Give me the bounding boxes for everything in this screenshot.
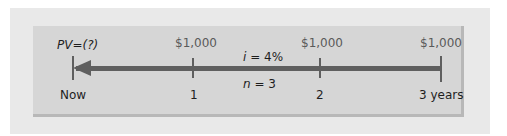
time-label-now: Now [60,88,86,102]
rate-value: = 4% [246,50,283,64]
rate-label: i = 4% [243,50,283,64]
tick-1 [192,58,194,78]
time-label-3-years: 3 years [419,88,463,102]
cash-flow-2: $1,000 [301,36,343,50]
periods-label: n = 3 [243,77,276,91]
periods-value: = 3 [251,77,276,91]
timeline-arrow-line [76,66,442,71]
arrow-left-icon [73,60,91,76]
time-label-2: 2 [316,88,324,102]
tick-3 [440,56,442,82]
cash-flow-1: $1,000 [175,36,217,50]
time-label-1: 1 [190,88,198,102]
pv-label: PV=(?) [57,38,98,52]
tick-2 [319,58,321,78]
cash-flow-3: $1,000 [420,36,462,50]
